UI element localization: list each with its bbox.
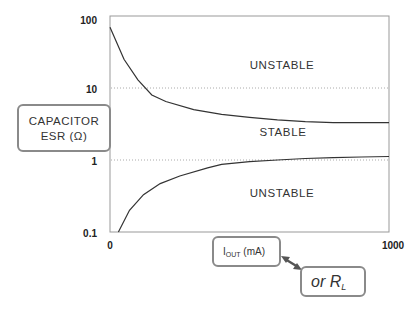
region-unstable-top: UNSTABLE xyxy=(250,59,315,71)
alt-x-label-sub: L xyxy=(341,282,346,292)
region-unstable-bottom: UNSTABLE xyxy=(250,187,315,199)
y-tick-10: 10 xyxy=(86,84,98,95)
plot-frame xyxy=(110,16,389,232)
y-axis-label-line2: ESR (Ω) xyxy=(19,129,109,144)
x-tick-0: 0 xyxy=(107,240,113,251)
y-tick-100: 100 xyxy=(80,15,97,26)
x-axis-label-box: IOUT (mA) xyxy=(212,236,281,267)
y-axis-label-box: CAPACITOR ESR (Ω) xyxy=(17,104,111,152)
y-tick-0.1: 0.1 xyxy=(83,228,97,239)
alt-x-label-box: or RL xyxy=(300,266,366,297)
alt-x-label-main: or R xyxy=(311,273,341,290)
x-tick-1000: 1000 xyxy=(382,240,405,251)
x-axis-label-unit: (mA) xyxy=(241,246,265,257)
upper-boundary-curve xyxy=(110,27,389,123)
y-tick-1: 1 xyxy=(91,156,97,167)
region-stable: STABLE xyxy=(260,126,307,138)
x-axis-label-sub: OUT xyxy=(226,251,241,258)
y-axis-label-line1: CAPACITOR xyxy=(19,114,109,129)
